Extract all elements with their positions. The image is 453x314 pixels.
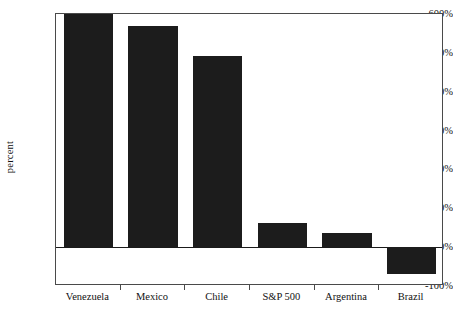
x-tick-mark [378, 285, 379, 290]
x-tick-label: S&P 500 [262, 291, 300, 302]
zero-baseline [56, 247, 442, 248]
x-tick-label: Mexico [136, 291, 168, 302]
x-tick-mark [314, 285, 315, 290]
plot-area [55, 13, 443, 285]
x-tick-mark [120, 285, 121, 290]
bar [64, 14, 113, 247]
x-tick-label: Argentina [325, 291, 367, 302]
bar [322, 233, 371, 247]
bar [193, 56, 242, 248]
x-tick-label: Venezuela [66, 291, 109, 302]
bar [128, 26, 177, 247]
x-tick-label: Brazil [398, 291, 424, 302]
x-tick-label: Chile [205, 291, 228, 302]
bar-chart: percent -100%0%100%200%300%400%500%600% … [0, 0, 453, 314]
x-tick-mark [249, 285, 250, 290]
x-tick-mark [184, 285, 185, 290]
y-axis-title: percent [0, 0, 18, 314]
bar [258, 223, 307, 247]
bar [387, 247, 436, 274]
